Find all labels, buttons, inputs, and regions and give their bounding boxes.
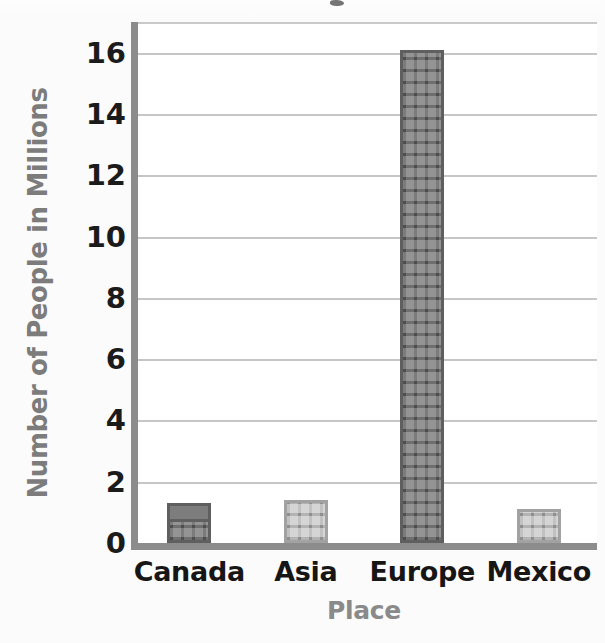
bar-building-texture [517,509,561,543]
x-tick-label: Asia [274,556,337,587]
y-tick-label: 6 [78,345,126,374]
bar-building-texture [400,50,444,543]
scan-artifact-band [0,0,605,20]
bar [284,500,328,543]
y-tick-label: 12 [78,161,126,190]
y-tick-label: 2 [78,467,126,496]
y-axis-title: Number of People in Millions [23,83,53,503]
x-axis-line [131,543,597,550]
y-tick-label: 8 [78,283,126,312]
bars-layer [131,22,597,543]
x-tick-label: Mexico [486,556,591,587]
bar-roof [170,506,208,522]
y-tick-label: 4 [78,406,126,435]
bar-building-texture [284,500,328,543]
x-tick-label: Canada [134,556,245,587]
y-tick-label: 0 [78,529,126,558]
x-tick-label: Europe [370,556,475,587]
y-axis-tick-labels: 16 14 12 10 8 6 4 2 0 [78,22,126,543]
cropped-title-remnant [330,0,344,6]
bar [400,50,444,543]
bar [517,509,561,543]
bar-chart: Number of People in Millions 16 14 12 10… [0,0,605,643]
x-axis-tick-labels: CanadaAsiaEuropeMexico [131,556,597,596]
bar [167,503,211,543]
y-tick-label: 10 [78,222,126,251]
y-tick-label: 16 [78,38,126,67]
y-tick-label: 14 [78,99,126,128]
x-axis-title: Place [131,596,597,625]
